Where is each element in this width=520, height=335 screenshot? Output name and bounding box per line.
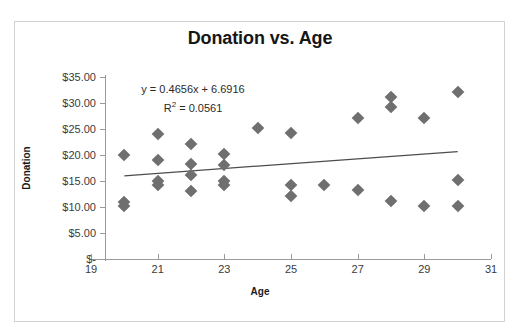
trendline-svg — [0, 0, 520, 335]
trendline — [124, 152, 457, 176]
chart-figure: Donation vs. Age $-$5.00$10.00$15.00$20.… — [0, 0, 520, 335]
